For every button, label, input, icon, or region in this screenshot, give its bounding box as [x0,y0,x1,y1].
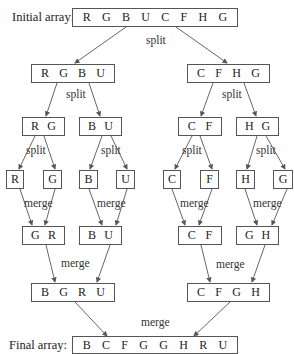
cell: C [102,338,110,353]
cell: F [205,228,212,243]
cell: R [48,228,56,243]
single-box-8: G [273,170,293,189]
cell: H [199,10,208,25]
cell: U [121,172,130,187]
initial-array-label: Initial array: [12,10,74,25]
cell: F [215,285,222,300]
merge-label: merge [61,257,90,269]
cell: G [59,66,68,81]
merge1-box-3: C F [178,226,222,245]
initial-array-box: R G B U C F H G [72,8,238,27]
cell: U [104,228,113,243]
merge-label: merge [97,197,126,209]
cell: B [41,285,49,300]
cell: H [245,119,254,134]
split-label: split [146,34,166,46]
final-array-box: B C F G G H R U [72,336,238,354]
cell: C [188,119,196,134]
cell: B [122,10,130,25]
merge-label: merge [141,316,170,328]
cell: U [96,285,105,300]
merge-label: merge [24,197,53,209]
split2-box-4: H G [236,117,279,136]
cell: C [197,285,205,300]
cell: G [232,285,241,300]
split-label: split [256,144,276,156]
cell: C [168,172,176,187]
cell: R [199,338,207,353]
single-box-6: F [200,170,219,189]
split-right-box: C F H G [187,64,270,83]
cell: B [84,172,92,187]
split-label: split [101,144,121,156]
cell: B [78,66,86,81]
cell: H [261,228,270,243]
cell: F [181,10,188,25]
split-label: split [182,144,202,156]
cell: C [188,228,196,243]
cell: C [161,10,169,25]
cell: G [48,172,57,187]
merge1-box-1: G R [22,226,65,245]
cell: B [88,119,96,134]
cell: G [159,338,168,353]
merge-label: merge [216,258,245,270]
cell: R [41,66,49,81]
cell: C [197,66,205,81]
merge2-left-box: B G R U [31,283,115,302]
merge2-right-box: C F G H [187,283,270,302]
cell: F [205,119,212,134]
cell: R [31,119,39,134]
cell: G [59,285,68,300]
cell: G [245,228,254,243]
merge-label: merge [253,197,282,209]
split2-box-3: C F [178,117,222,136]
single-box-7: H [236,170,255,189]
split2-box-2: B U [79,117,122,136]
single-box-4: U [116,170,135,189]
cell: U [104,119,113,134]
cell: G [279,172,288,187]
cell: U [141,10,150,25]
cell: G [139,338,148,353]
cell: G [102,10,111,25]
split-label: split [66,88,86,100]
cell: U [96,66,105,81]
cell: G [251,66,260,81]
cell: R [11,172,19,187]
cell: G [261,119,270,134]
cell: G [31,228,40,243]
split-label: split [222,88,242,100]
single-box-5: C [163,170,181,189]
cell: R [78,285,86,300]
single-box-3: B [79,170,98,189]
split2-box-1: R G [22,117,65,136]
cell: U [219,338,228,353]
cell: F [206,172,213,187]
cell: F [121,338,128,353]
merge1-box-2: B U [79,226,122,245]
single-box-1: R [6,170,24,189]
merge1-box-4: G H [236,226,279,245]
cell: F [215,66,222,81]
split-left-box: R G B U [31,64,115,83]
cell: H [241,172,250,187]
cell: H [232,66,241,81]
cell: B [83,338,91,353]
cell: G [219,10,228,25]
cell: B [88,228,96,243]
final-array-label: Final array: [9,338,67,353]
split-label: split [26,144,46,156]
merge-label: merge [180,197,209,209]
cell: G [47,119,56,134]
cell: H [251,285,260,300]
cell: R [83,10,91,25]
single-box-2: G [43,170,62,189]
cell: H [179,338,188,353]
